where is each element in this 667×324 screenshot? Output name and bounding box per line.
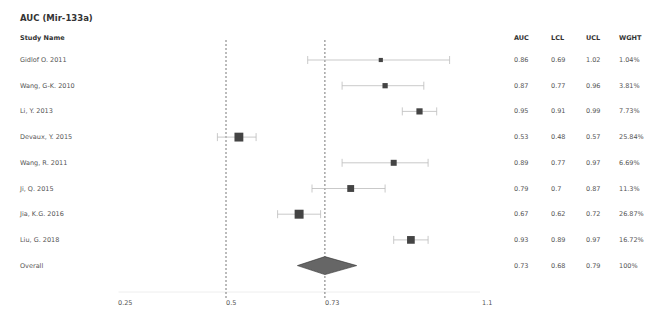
x-tick-label: 0.73 <box>325 299 339 307</box>
effect-marker <box>379 58 383 62</box>
effect-marker <box>391 160 397 166</box>
effect-marker <box>407 236 415 244</box>
x-tick-label: 0.5 <box>226 299 236 307</box>
effect-marker <box>382 83 387 88</box>
x-tick-label: 0.25 <box>118 299 132 307</box>
effect-marker <box>295 210 304 219</box>
effect-marker <box>234 133 243 142</box>
x-tick-label: 1.1 <box>482 299 492 307</box>
effect-marker <box>347 185 354 192</box>
forest-plot <box>0 0 667 324</box>
overall-diamond <box>297 257 356 275</box>
effect-marker <box>416 108 422 114</box>
